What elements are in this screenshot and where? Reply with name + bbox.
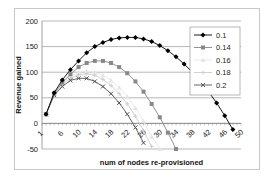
data-point (141, 119, 146, 124)
data-point (100, 40, 105, 45)
x-axis-title: num of nodes re-provisioned (100, 158, 204, 167)
legend-marker-icon (201, 46, 205, 50)
x-tick-label: 34 (168, 128, 180, 140)
data-point (158, 115, 162, 119)
x-tick-label: 10 (71, 128, 83, 140)
data-point (133, 35, 138, 40)
data-point (101, 59, 105, 63)
data-point (141, 36, 146, 41)
x-tick-label: 42 (201, 128, 213, 140)
x-tick-label: 46 (217, 128, 229, 140)
data-point (142, 90, 146, 94)
data-point (117, 35, 122, 40)
legend-label: 0.2 (216, 81, 226, 90)
data-point (93, 59, 97, 63)
legend-label: 0.16 (216, 56, 231, 65)
legend-label: 0.18 (216, 68, 231, 77)
data-point (149, 39, 154, 44)
x-tick-label: 1 (36, 129, 45, 138)
data-point (109, 78, 114, 83)
data-point (109, 61, 113, 65)
y-tick-label: 200 (25, 17, 38, 26)
data-point (125, 71, 129, 75)
x-tick-label: 18 (103, 128, 115, 140)
y-tick-label: 0 (34, 119, 38, 128)
data-point (109, 37, 114, 42)
data-point (85, 61, 89, 65)
data-point (174, 147, 178, 151)
x-tick-label: 14 (87, 128, 99, 140)
data-point (68, 72, 72, 76)
y-tick-label: 100 (25, 68, 38, 77)
y-axis-title: Revenue gained (15, 56, 23, 114)
y-tick-label: -50 (27, 145, 38, 154)
y-tick-label: 150 (25, 42, 38, 51)
data-point (77, 65, 81, 69)
data-point (117, 65, 121, 69)
legend-label: 0.14 (216, 43, 231, 52)
x-tick-label: 22 (119, 128, 131, 140)
data-point (157, 43, 162, 48)
data-point (150, 102, 154, 106)
chart-frame: -50050100150200161014182226303438424650n… (14, 8, 260, 170)
legend-label: 0.1 (216, 31, 226, 40)
line-chart: -50050100150200161014182226303438424650n… (15, 9, 259, 169)
data-point (133, 79, 137, 83)
data-point (166, 131, 170, 135)
x-tick-label: 6 (56, 129, 65, 138)
y-tick-label: 50 (30, 93, 38, 102)
data-point (222, 113, 227, 118)
x-tick-label: 38 (184, 128, 196, 140)
data-point (125, 35, 130, 40)
